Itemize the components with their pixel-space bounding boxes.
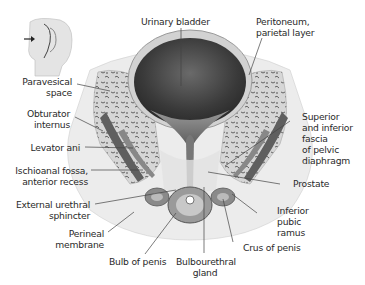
label-obturator-internus: Obturator internus	[22, 108, 70, 130]
label-prostate: Prostate	[293, 178, 329, 189]
label-perineal-membrane: Perineal membrane	[40, 228, 104, 250]
head-orientation-icon	[24, 18, 72, 76]
label-urinary-bladder: Urinary bladder	[141, 16, 210, 27]
label-pelvic-diaphragm-fascia: Superior and inferior fascia of pelvic d…	[302, 111, 353, 166]
label-ischioanal-fossa: Ischioanal fossa, anterior recess	[2, 165, 88, 187]
label-bulbourethral-gland: Bulbourethral gland	[176, 256, 234, 278]
label-inferior-pubic-ramus: Inferior pubic ramus	[277, 205, 309, 238]
label-external-urethral-sphincter: External urethral sphincter	[2, 199, 90, 221]
label-levator-ani: Levator ani	[20, 142, 80, 153]
label-bulb-of-penis: Bulb of penis	[109, 256, 166, 267]
label-peritoneum: Peritoneum, parietal layer	[256, 16, 314, 38]
label-paravesical-space: Paravesical space	[22, 76, 72, 98]
label-crus-of-penis: Crus of penis	[243, 242, 301, 253]
